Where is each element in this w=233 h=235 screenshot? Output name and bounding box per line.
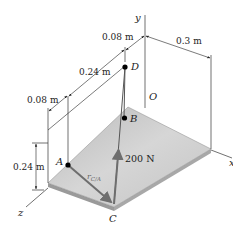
point-b-label: B xyxy=(129,113,137,124)
z-axis-line xyxy=(26,188,48,207)
dim-label-left-offset: 0.08 m xyxy=(27,95,59,105)
point-c-label: C xyxy=(109,213,117,224)
point-a-marker xyxy=(65,162,70,167)
dim-label-plate-width: 0.3 m xyxy=(176,36,202,46)
point-d-label: D xyxy=(130,61,139,72)
y-axis-label: y xyxy=(134,12,141,23)
dim-label-depth-mid: 0.24 m xyxy=(79,67,111,77)
vector-diagram: y O z x D B A C 0.08 m 0.3 m 0.24 m 0.08… xyxy=(0,0,233,235)
x-axis-label: x xyxy=(229,157,233,168)
position-vector-subscript: C/A xyxy=(91,176,101,182)
point-d-marker xyxy=(122,64,127,69)
force-label: 200 N xyxy=(125,153,154,164)
dim-label-top-offset: 0.08 m xyxy=(102,32,134,42)
point-a-label: A xyxy=(55,156,63,167)
origin-label: O xyxy=(149,91,157,102)
point-b-marker xyxy=(122,115,127,120)
z-axis-label: z xyxy=(17,207,24,218)
dim-label-height: 0.24 m xyxy=(13,162,45,172)
